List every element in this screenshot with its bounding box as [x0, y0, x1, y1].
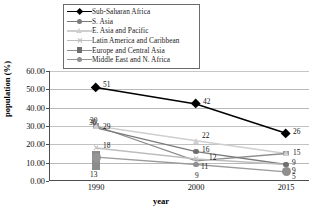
legend-item-middle-east-and-n-africa: Middle East and N. Africa — [67, 55, 196, 65]
plot-area: 51 42 26 30 22 15 29 16 9 18 12 9 30 11 … — [49, 71, 309, 181]
x-tick-label: 1990 — [88, 183, 105, 192]
legend-item-sub-saharan-africa: Sub-Saharan Africa — [67, 7, 196, 17]
legend-item-s-asia: S. Asia — [67, 17, 196, 27]
data-point-marker — [282, 167, 291, 176]
data-label: 26 — [293, 127, 300, 136]
data-point-marker — [283, 150, 289, 156]
legend-marker-square-icon — [67, 46, 92, 55]
data-label: 29 — [103, 122, 110, 131]
legend-marker-triangle-icon — [67, 26, 92, 35]
data-point-marker — [193, 138, 199, 144]
y-tick-label: 40.00 — [26, 103, 45, 112]
data-label: 22 — [202, 131, 209, 140]
data-point-marker — [93, 145, 99, 151]
y-tick-label: 20.00 — [26, 140, 45, 149]
legend-label: E. Asia and Pacific — [92, 26, 148, 35]
data-point-marker — [193, 149, 198, 154]
legend-label: Middle East and N. Africa — [92, 55, 170, 64]
data-label: 11 — [201, 162, 208, 171]
y-tick-label: 60.00 — [26, 67, 45, 76]
chart-legend: Sub-Saharan Africa S. Asia E. Asia and P… — [63, 4, 200, 69]
line-europe-and-central-asia — [96, 126, 286, 161]
data-label: 9 — [195, 171, 199, 180]
legend-item-e-asia-and-pacific: E. Asia and Pacific — [67, 26, 196, 36]
data-label: 42 — [203, 97, 210, 106]
legend-marker-diamond-icon — [67, 7, 92, 16]
legend-label: S. Asia — [92, 17, 113, 26]
data-label: 12 — [209, 153, 216, 162]
chart-figure: Sub-Saharan Africa S. Asia E. Asia and P… — [0, 0, 322, 222]
x-tick-label: 2015 — [278, 183, 295, 192]
legend-label: Sub-Saharan Africa — [92, 7, 150, 16]
legend-label: Europe and Central Asia — [92, 46, 165, 55]
series-lines — [49, 71, 309, 181]
data-label: 5 — [292, 172, 296, 181]
legend-marker-circle-icon — [67, 55, 92, 64]
legend-item-latin-america-and-caribbean: Latin America and Caribbean — [67, 36, 196, 46]
line-e-asia-and-pacific — [96, 126, 286, 154]
line-sub-saharan-africa — [96, 88, 286, 134]
data-point-marker — [92, 153, 101, 162]
legend-marker-x-icon — [67, 36, 92, 45]
y-tick-label: 50.00 — [26, 85, 45, 94]
y-axis-tick-labels: 0.00 10.00 20.00 30.00 40.00 50.00 60.00 — [0, 71, 45, 181]
data-label: 51 — [103, 80, 110, 89]
y-tick-label: 30.00 — [26, 122, 45, 131]
data-label: 30 — [89, 118, 96, 127]
data-point-marker — [193, 162, 198, 167]
y-tick-label: 0.00 — [30, 177, 45, 186]
y-tick-label: 10.00 — [26, 158, 45, 167]
data-label: 18 — [103, 141, 110, 150]
data-label: 15 — [293, 148, 300, 157]
data-label: 13 — [90, 170, 97, 179]
x-axis-title: year — [0, 196, 322, 206]
y-axis-tick — [46, 181, 50, 182]
x-tick-label: 2000 — [188, 183, 205, 192]
legend-item-europe-and-central-asia: Europe and Central Asia — [67, 45, 196, 55]
legend-marker-circle-icon — [67, 17, 92, 26]
legend-label: Latin America and Caribbean — [92, 36, 179, 45]
